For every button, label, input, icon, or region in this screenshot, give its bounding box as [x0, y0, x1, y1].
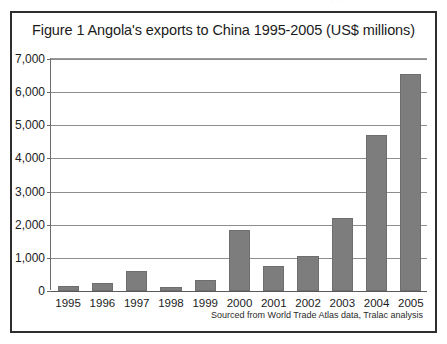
x-axis-label-2002: 2002	[295, 297, 321, 309]
y-axis-label: 2,000	[15, 218, 45, 232]
figure-container: Figure 1 Angola's exports to China 1995-…	[10, 11, 437, 333]
x-axis-label-1998: 1998	[158, 297, 184, 309]
bar-2000	[229, 230, 250, 291]
bar-1997	[126, 271, 147, 291]
x-axis-label-2000: 2000	[227, 297, 253, 309]
y-axis-label: 4,000	[15, 151, 45, 165]
bar-2004	[366, 135, 387, 291]
bar-2003	[332, 218, 353, 291]
page-top-artifact-text: · ·	[330, 0, 340, 5]
figure-title: Figure 1 Angola's exports to China 1995-…	[12, 22, 435, 38]
x-axis-label-2005: 2005	[398, 297, 424, 309]
y-axis-label: 0	[38, 284, 45, 298]
x-axis-label-1996: 1996	[90, 297, 116, 309]
bar-1999	[195, 280, 216, 291]
x-axis-label-1999: 1999	[192, 297, 218, 309]
y-axis-label: 6,000	[15, 85, 45, 99]
y-axis-label: 7,000	[15, 52, 45, 66]
x-axis-label-2001: 2001	[261, 297, 287, 309]
bar-1996	[92, 283, 113, 291]
x-axis-label-2003: 2003	[330, 297, 356, 309]
chart-plot-area: 01,0002,0003,0004,0005,0006,0007,000 199…	[50, 58, 427, 290]
bar-2005	[400, 74, 421, 291]
x-axis-label-2004: 2004	[364, 297, 390, 309]
y-axis-label: 3,000	[15, 185, 45, 199]
y-axis-label: 1,000	[15, 251, 45, 265]
y-axis-label: 5,000	[15, 118, 45, 132]
bar-2001	[263, 266, 284, 291]
source-note: Sourced from World Trade Atlas data, Tra…	[211, 310, 423, 320]
bar-series	[51, 59, 427, 291]
page-top-artifact: · ·	[0, 0, 447, 9]
x-axis-label-1995: 1995	[55, 297, 81, 309]
bar-2002	[297, 256, 318, 291]
x-axis-line	[51, 291, 427, 292]
x-axis-label-1997: 1997	[124, 297, 150, 309]
